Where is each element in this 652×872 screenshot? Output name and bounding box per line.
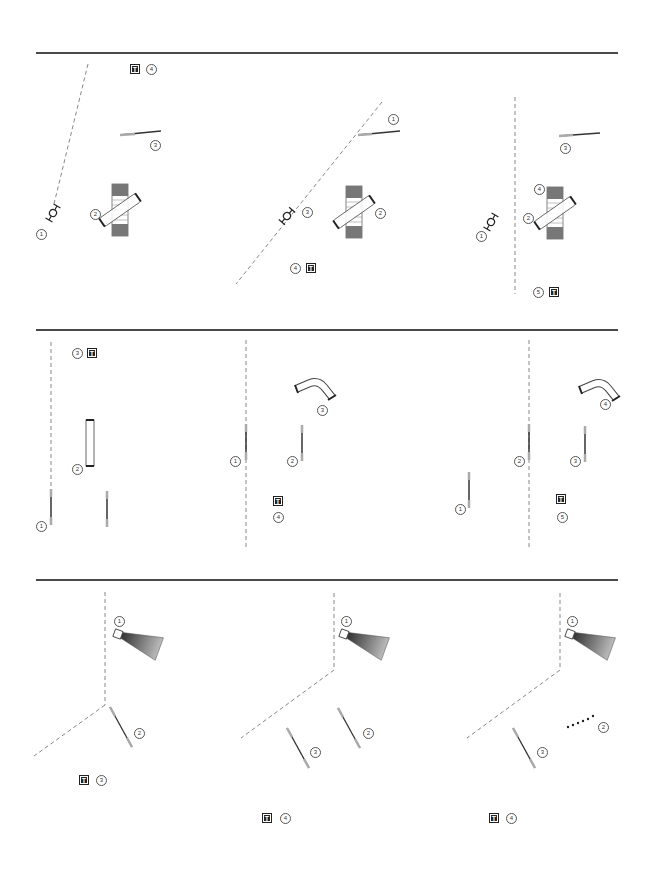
callout-1: 1 xyxy=(341,616,352,627)
callout-2: 2 xyxy=(134,728,145,739)
tool-label: T xyxy=(491,815,497,821)
callout-1: 1 xyxy=(114,616,125,627)
callout-3: 3 xyxy=(302,207,313,218)
callout-2: 2 xyxy=(375,208,386,219)
callout-3: 3 xyxy=(537,747,548,758)
callout-3: 3 xyxy=(96,775,107,786)
callout-4: 4 xyxy=(146,64,157,75)
tool-label: T xyxy=(132,66,138,72)
callout-2: 2 xyxy=(598,722,609,733)
tool-label: T xyxy=(275,498,281,504)
callout-2: 2 xyxy=(90,209,101,220)
tool-label: T xyxy=(264,815,270,821)
wall-anchor xyxy=(46,204,61,222)
callout-4: 4 xyxy=(534,184,545,195)
tool-icon: T xyxy=(489,813,499,823)
callout-1: 1 xyxy=(388,114,399,125)
callout-2: 2 xyxy=(523,213,534,224)
callout-3: 3 xyxy=(317,405,328,416)
callout-3: 3 xyxy=(560,143,571,154)
callout-5: 5 xyxy=(557,512,568,523)
callout-2: 2 xyxy=(287,456,298,467)
instruction-artwork xyxy=(0,0,652,872)
callout-3: 3 xyxy=(570,456,581,467)
callout-2: 2 xyxy=(363,728,374,739)
tool-label: T xyxy=(81,777,87,783)
tool-icon: T xyxy=(306,263,316,273)
callout-1: 1 xyxy=(36,229,47,240)
tool-label: T xyxy=(89,350,95,356)
tool-icon: T xyxy=(262,813,272,823)
tool-label: T xyxy=(551,289,557,295)
callout-1: 1 xyxy=(36,521,47,532)
callout-4: 4 xyxy=(600,399,611,410)
callout-3: 3 xyxy=(72,348,83,359)
callout-4: 4 xyxy=(290,263,301,274)
callout-3: 3 xyxy=(310,747,321,758)
callout-3: 3 xyxy=(150,140,161,151)
tool-icon: T xyxy=(130,64,140,74)
tool-icon: T xyxy=(549,287,559,297)
callout-2: 2 xyxy=(514,456,525,467)
tool-icon: T xyxy=(273,496,283,506)
callout-4: 4 xyxy=(273,512,284,523)
tool-icon: T xyxy=(556,494,566,504)
tool-label: T xyxy=(308,265,314,271)
tool-icon: T xyxy=(87,348,97,358)
tool-icon: T xyxy=(79,775,89,785)
callout-4: 4 xyxy=(506,813,517,824)
callout-2: 2 xyxy=(72,464,83,475)
callout-1: 1 xyxy=(476,231,487,242)
callout-1: 1 xyxy=(567,616,578,627)
callout-5: 5 xyxy=(533,287,544,298)
callout-1: 1 xyxy=(455,504,466,515)
tool-label: T xyxy=(558,496,564,502)
callout-4: 4 xyxy=(280,813,291,824)
callout-1: 1 xyxy=(230,456,241,467)
